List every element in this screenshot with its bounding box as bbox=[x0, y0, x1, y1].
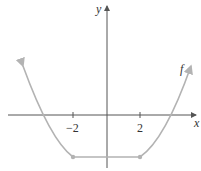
y-axis-label: y bbox=[96, 3, 101, 15]
tick-label-neg2: −2 bbox=[66, 122, 79, 134]
curve-label: f bbox=[180, 63, 183, 75]
point-left bbox=[71, 155, 75, 159]
function-graph bbox=[0, 0, 201, 171]
x-axis-label: x bbox=[194, 117, 199, 129]
point-right bbox=[138, 155, 142, 159]
tick-label-2: 2 bbox=[137, 122, 143, 134]
